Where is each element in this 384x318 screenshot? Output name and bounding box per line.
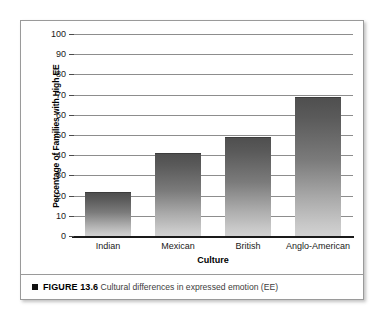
square-bullet-icon bbox=[32, 284, 38, 290]
x-axis-title: Culture bbox=[73, 255, 353, 265]
y-tick-mark bbox=[69, 54, 74, 55]
y-tick-label: 0 bbox=[61, 231, 66, 241]
y-tick-label: 20 bbox=[56, 191, 66, 201]
y-tick-label: 80 bbox=[56, 69, 66, 79]
y-tick-mark bbox=[69, 74, 74, 75]
y-tick-mark bbox=[69, 196, 74, 197]
gridline bbox=[73, 34, 353, 35]
y-tick-mark bbox=[69, 115, 74, 116]
gridline bbox=[73, 54, 353, 55]
y-tick-label: 50 bbox=[56, 130, 66, 140]
x-tick-label: Mexican bbox=[161, 241, 195, 251]
y-tick-mark bbox=[69, 34, 74, 35]
y-tick-mark bbox=[69, 155, 74, 156]
bar bbox=[295, 97, 341, 236]
figure-caption-label: FIGURE 13.6 bbox=[43, 282, 98, 292]
x-tick-label: Anglo-American bbox=[286, 241, 350, 251]
y-tick-label: 10 bbox=[56, 211, 66, 221]
chart-plot-region: Percentage of Families with High EE 0102… bbox=[21, 21, 365, 265]
y-tick-label: 40 bbox=[56, 150, 66, 160]
y-tick-mark bbox=[69, 175, 74, 176]
y-tick-mark bbox=[69, 135, 74, 136]
y-tick-mark bbox=[69, 236, 74, 237]
y-tick-label: 60 bbox=[56, 110, 66, 120]
chart-axes: 0102030405060708090100 IndianMexicanBrit… bbox=[73, 34, 353, 236]
y-tick-mark bbox=[69, 216, 74, 217]
figure-caption: FIGURE 13.6 Cultural differences in expr… bbox=[32, 281, 355, 293]
x-tick-label: Indian bbox=[96, 241, 121, 251]
bar bbox=[85, 192, 131, 236]
gridline bbox=[73, 95, 353, 96]
bar bbox=[225, 137, 271, 236]
figure-panel: Percentage of Families with High EE 0102… bbox=[20, 20, 364, 300]
y-tick-label: 100 bbox=[51, 29, 66, 39]
y-tick-label: 90 bbox=[56, 49, 66, 59]
y-tick-label: 70 bbox=[56, 90, 66, 100]
bar bbox=[155, 153, 201, 236]
y-tick-mark bbox=[69, 95, 74, 96]
axis-baseline bbox=[72, 236, 354, 238]
figure-caption-text: Cultural differences in expressed emotio… bbox=[101, 282, 279, 292]
caption-divider bbox=[21, 274, 363, 275]
x-tick-label: British bbox=[235, 241, 260, 251]
y-tick-label: 30 bbox=[56, 170, 66, 180]
gridline bbox=[73, 74, 353, 75]
